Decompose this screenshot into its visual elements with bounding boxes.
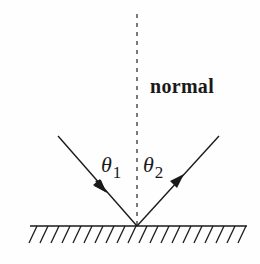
mirror-hatching (29, 226, 246, 243)
theta-subscript: 2 (155, 163, 164, 182)
angle-incidence-label: θ1 (101, 152, 121, 183)
theta-symbol: θ (143, 152, 154, 177)
normal-label: normal (150, 75, 214, 98)
theta-symbol: θ (101, 152, 112, 177)
reflected-arrowhead-icon (170, 174, 184, 188)
theta-subscript: 1 (113, 163, 122, 182)
diagram-graphics (0, 0, 260, 264)
reflection-diagram: normal θ1 θ2 (0, 0, 260, 264)
angle-reflection-label: θ2 (143, 152, 163, 183)
